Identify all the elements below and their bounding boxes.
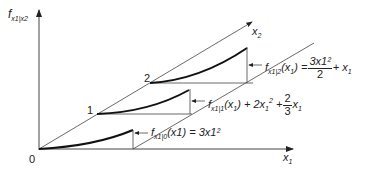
equation-level-0: fx1|0(x1) = 3x1²: [151, 127, 220, 140]
equation-level-2: fx1|2(x1) =3x1²2+ x1: [265, 56, 352, 80]
equation-level-1: fx1|1(x1) + 2x12 +23x1: [208, 93, 302, 117]
level-1-label: 1: [87, 105, 93, 116]
x2-axis-label: x2: [252, 26, 261, 39]
level-2-label: 2: [144, 73, 150, 84]
curve-level-2: [150, 48, 247, 83]
origin-label: 0: [29, 154, 35, 165]
x1-axis-label: x1: [283, 152, 292, 165]
y-axis-label: fx1|x2: [8, 8, 28, 22]
diagram-canvas: [0, 0, 368, 169]
curve-level-1: [97, 90, 189, 114]
curve-level-0: [39, 130, 133, 149]
